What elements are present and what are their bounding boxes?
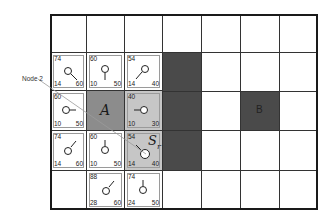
pathfinding-grid-diagram: 74 14 60 60 10 50 54 14 40 60 10 50 A 40… <box>0 0 327 222</box>
grid-outer-border <box>50 14 318 210</box>
node-2-callout-label: Node 2 <box>22 75 43 82</box>
